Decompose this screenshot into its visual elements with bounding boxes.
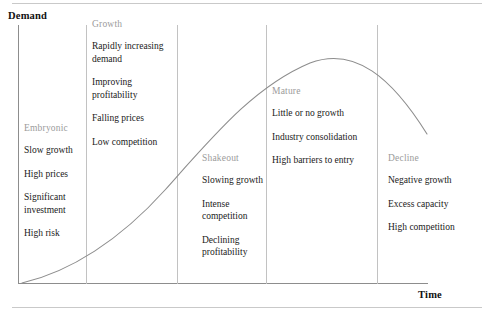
stage-item: Negative growth bbox=[388, 174, 458, 187]
x-axis-label: Time bbox=[418, 289, 442, 300]
stage-divider-mature-decline bbox=[377, 25, 378, 284]
stage-column-mature: Mature Little or no growth Industry cons… bbox=[272, 86, 377, 167]
stage-column-embryonic: Embryonic Slow growth High prices Signif… bbox=[24, 123, 84, 240]
stage-item: Slow growth bbox=[24, 144, 84, 157]
stage-title-decline: Decline bbox=[388, 153, 458, 163]
y-axis-line bbox=[18, 25, 19, 284]
stage-item: Falling prices bbox=[92, 112, 166, 125]
stage-title-shakeout: Shakeout bbox=[202, 153, 264, 163]
y-axis-label: Demand bbox=[8, 10, 47, 21]
stage-item: Slowing growth bbox=[202, 174, 264, 187]
industry-life-cycle-diagram: Demand Time Embryonic Slow growth High p… bbox=[0, 0, 494, 319]
stage-column-growth: Growth Rapidly increasing demand Improvi… bbox=[92, 19, 166, 148]
stage-item: Declining profitability bbox=[202, 234, 264, 259]
stage-divider-embryonic-growth bbox=[86, 25, 87, 284]
stage-item: Little or no growth bbox=[272, 107, 377, 120]
stage-item: High competition bbox=[388, 221, 458, 234]
stage-item: Industry consolidation bbox=[272, 131, 377, 144]
stage-item: Intense competition bbox=[202, 198, 264, 223]
stage-divider-growth-shakeout bbox=[177, 25, 178, 284]
top-divider-rule bbox=[12, 3, 482, 4]
stage-column-shakeout: Shakeout Slowing growth Intense competit… bbox=[202, 153, 264, 259]
stage-item: Improving profitability bbox=[92, 76, 166, 101]
stage-item: Excess capacity bbox=[388, 198, 458, 211]
stage-item: Low competition bbox=[92, 136, 166, 149]
stage-item: Rapidly increasing demand bbox=[92, 40, 166, 65]
stage-item: High risk bbox=[24, 227, 84, 240]
stage-title-embryonic: Embryonic bbox=[24, 123, 84, 133]
stage-divider-shakeout-mature bbox=[266, 25, 267, 284]
stage-item: Significant investment bbox=[24, 191, 84, 216]
stage-item: High prices bbox=[24, 168, 84, 181]
x-axis-line bbox=[18, 283, 428, 284]
stage-title-mature: Mature bbox=[272, 86, 377, 96]
stage-item: High barriers to entry bbox=[272, 154, 377, 167]
bottom-divider-rule bbox=[12, 307, 482, 308]
stage-column-decline: Decline Negative growth Excess capacity … bbox=[388, 153, 458, 234]
stage-title-growth: Growth bbox=[92, 19, 166, 29]
